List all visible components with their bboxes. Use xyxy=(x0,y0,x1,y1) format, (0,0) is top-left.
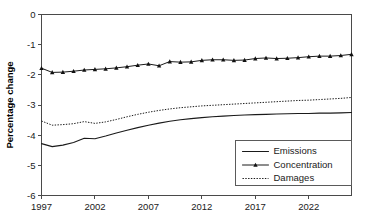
y-axis-title: Percentage change xyxy=(4,61,15,148)
x-tick-label-2: 2007 xyxy=(138,201,159,212)
x-tick-label-1: 2002 xyxy=(84,201,105,212)
legend-label-emissions: Emissions xyxy=(274,145,318,156)
y-tick-label-5: -5 xyxy=(27,160,35,171)
chart-figure: 0-1-2-3-4-5-6 199720022007201220172022 P… xyxy=(0,0,369,223)
y-tick-label-1: -1 xyxy=(27,39,35,50)
chart-legend: EmissionsConcentrationDamages xyxy=(236,141,352,186)
x-tick-label-0: 1997 xyxy=(31,201,52,212)
y-tick-label-2: -2 xyxy=(27,69,35,80)
x-tick-label-3: 2012 xyxy=(191,201,212,212)
x-tick-label-4: 2017 xyxy=(245,201,266,212)
legend-label-damages: Damages xyxy=(274,172,315,183)
y-tick-label-6: -6 xyxy=(27,190,35,201)
x-tick-label-5: 2022 xyxy=(298,201,319,212)
line-chart: 0-1-2-3-4-5-6 199720022007201220172022 P… xyxy=(0,0,369,223)
y-tick-label-3: -3 xyxy=(27,99,35,110)
y-tick-label-4: -4 xyxy=(27,130,35,141)
chart-background xyxy=(0,0,369,223)
legend-label-concentration: Concentration xyxy=(274,159,333,170)
y-tick-label-0: 0 xyxy=(30,9,35,20)
